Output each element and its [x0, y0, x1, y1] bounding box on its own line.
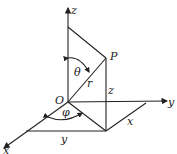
z-length-label: z	[107, 84, 114, 97]
x-axis	[4, 102, 68, 148]
top-to-p-line	[68, 27, 106, 58]
y-length-label: y	[60, 133, 68, 146]
spherical-coordinates-diagram: z y x O P θ φ r z x y	[0, 0, 177, 154]
theta-label: θ	[74, 66, 81, 79]
radius-label: r	[87, 77, 93, 90]
y-axis	[68, 101, 167, 102]
point-label: P	[109, 50, 118, 63]
x-length-label: x	[127, 115, 134, 128]
x-axis-label: x	[3, 144, 10, 154]
x-parallel-line	[106, 103, 146, 131]
z-axis-label: z	[70, 4, 77, 17]
projection-line	[68, 102, 106, 131]
phi-label: φ	[62, 106, 70, 119]
y-axis-label: y	[167, 96, 175, 109]
